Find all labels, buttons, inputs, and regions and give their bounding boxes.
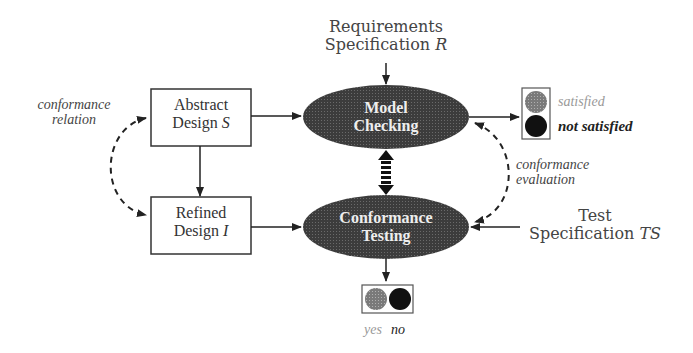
not-satisfied-label: not satisfied — [558, 118, 633, 135]
conformance-evaluation-curve — [475, 123, 509, 222]
yes-light — [365, 288, 387, 310]
test-spec-label: Test Specification TS — [520, 207, 670, 242]
not-satisfied-light — [525, 115, 547, 137]
conformance-evaluation-label: conformance evaluation — [516, 157, 606, 188]
satisfied-light — [525, 91, 547, 113]
no-light — [389, 288, 411, 310]
conformance-testing-label: Conformance Testing — [303, 209, 469, 244]
conformance-relation-curve — [111, 118, 146, 215]
conformance-relation-label: conformance relation — [24, 97, 124, 128]
diagram-canvas: Abstract Design S Refined Design I Model… — [0, 0, 693, 353]
satisfied-label: satisfied — [558, 94, 605, 109]
model-checking-label: Model Checking — [303, 99, 469, 134]
no-label: no — [391, 322, 405, 337]
refined-design-label: Refined Design I — [151, 204, 251, 239]
yes-label: yes — [364, 322, 382, 337]
double-arrow-between-checks — [378, 150, 394, 195]
requirements-spec-label: Requirements Specification R — [306, 18, 466, 53]
abstract-design-label: Abstract Design S — [151, 96, 251, 131]
